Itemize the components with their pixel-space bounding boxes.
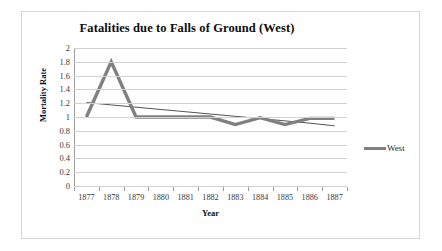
x-axis-tick: [223, 187, 224, 191]
gridline: [74, 117, 347, 118]
chart-container: Fatalities due to Falls of Ground (West)…: [21, 11, 420, 239]
gridline: [74, 131, 347, 132]
x-axis-tick: [248, 187, 249, 191]
y-axis-tick-label: 0: [44, 181, 70, 191]
y-axis-tick-label: 0.8: [44, 126, 70, 136]
y-axis-tick-label: 0.4: [44, 153, 70, 163]
legend-swatch-west: [364, 147, 386, 150]
x-axis-tick: [347, 187, 348, 191]
y-axis-tick-labels: 21.81.61.41.210.80.60.40.20: [40, 48, 70, 186]
gridline: [74, 145, 347, 146]
x-axis-tick: [273, 187, 274, 191]
x-axis-tick: [124, 187, 125, 191]
y-axis-tick-label: 1.8: [44, 57, 70, 67]
x-axis-tick: [198, 187, 199, 191]
chart-legend: West: [364, 143, 405, 153]
y-axis-tick-label: 1.4: [44, 84, 70, 94]
gridline: [74, 158, 347, 159]
gridline: [74, 76, 347, 77]
plot-area: [74, 48, 347, 186]
y-axis-tick-label: 2: [44, 43, 70, 53]
x-axis-ticks: [74, 187, 347, 192]
gridline: [74, 89, 347, 90]
legend-label-west: West: [387, 143, 405, 153]
x-axis-tick: [297, 187, 298, 191]
x-axis-tick: [99, 187, 100, 191]
y-axis-tick-label: 0.2: [44, 167, 70, 177]
gridline: [74, 62, 347, 63]
x-axis-tick: [173, 187, 174, 191]
gridline: [74, 48, 347, 49]
x-axis-tick: [322, 187, 323, 191]
gridline: [74, 103, 347, 104]
gridline: [74, 172, 347, 173]
y-axis-tick-label: 0.6: [44, 140, 70, 150]
x-axis-title: Year: [74, 208, 347, 218]
x-axis-tick: [148, 187, 149, 191]
y-axis-tick-label: 1.6: [44, 71, 70, 81]
y-axis-tick-label: 1.2: [44, 98, 70, 108]
x-axis-tick: [74, 187, 75, 191]
x-axis-tick-labels: 1877187818791880188118821883188418851886…: [74, 193, 347, 207]
series-path-west: [86, 62, 334, 125]
y-axis-tick-label: 1: [44, 112, 70, 122]
chart-title: Fatalities due to Falls of Ground (West): [22, 21, 352, 36]
x-axis-tick-label: 1887: [320, 193, 350, 202]
